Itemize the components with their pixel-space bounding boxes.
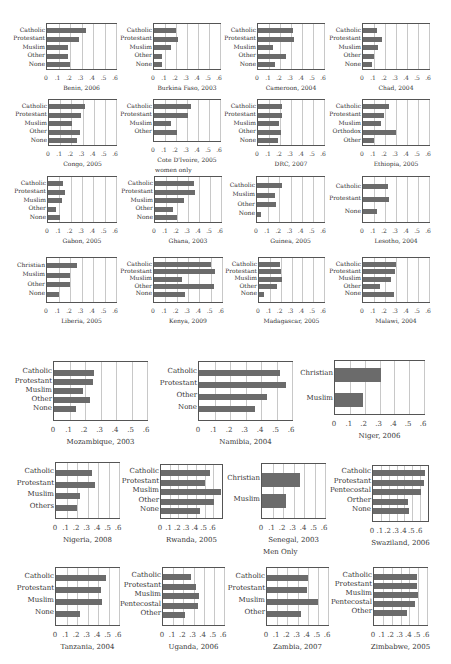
- bar: [257, 212, 261, 217]
- x-tick-label: .5: [270, 426, 282, 434]
- category-label: Other: [212, 51, 256, 58]
- gridline: [105, 24, 106, 69]
- x-tick-label: .2: [64, 227, 76, 234]
- bar: [56, 587, 101, 593]
- bar: [199, 382, 286, 388]
- category-label: Other: [213, 282, 257, 289]
- x-tick-label: .6: [215, 307, 227, 314]
- category-label: Other: [106, 609, 161, 617]
- category-label: Pentecostal: [316, 486, 371, 494]
- category-label: Other: [108, 51, 152, 58]
- x-tick-label: .4: [86, 307, 98, 314]
- category-label: Other: [212, 127, 256, 134]
- gridline: [302, 258, 303, 302]
- chart-title: Senegal, 2003: [241, 536, 346, 544]
- bar: [335, 368, 381, 382]
- x-tick-label: .6: [321, 631, 333, 639]
- category-label: Catholic: [317, 26, 361, 33]
- bar-chart-panel: 0.1.2.3.4.5.6CatholicProtestantMuslimOth…: [47, 176, 117, 223]
- plot-area: [53, 361, 148, 421]
- bar: [257, 183, 282, 188]
- x-tick-label: .6: [422, 74, 434, 81]
- category-label: None: [104, 505, 159, 513]
- x-tick-label: .5: [204, 307, 216, 314]
- plot-area: [362, 176, 430, 223]
- gridline: [302, 24, 303, 69]
- gridline: [198, 24, 199, 69]
- x-tick-label: .6: [217, 631, 229, 639]
- x-tick-label: .1: [343, 420, 355, 428]
- category-label: Christian: [205, 474, 260, 482]
- category-label: Catholic: [317, 102, 361, 109]
- x-tick-label: 0: [147, 307, 159, 314]
- category-label: None: [3, 136, 47, 143]
- chart-title: Ethiopia, 2005: [342, 160, 450, 167]
- bar: [258, 54, 286, 59]
- x-tick-label: .3: [181, 307, 193, 314]
- bar: [48, 190, 65, 195]
- bar: [258, 138, 278, 143]
- bar: [363, 184, 388, 189]
- category-label: Muslim: [104, 486, 159, 494]
- gridline: [429, 177, 430, 222]
- category-label: Catholic: [108, 102, 152, 109]
- category-label: Other: [1, 280, 45, 287]
- bar: [154, 292, 185, 297]
- plot-area: [153, 23, 221, 70]
- gridline: [199, 177, 200, 222]
- plot-area: [257, 99, 325, 146]
- x-tick-label: .6: [213, 146, 225, 153]
- bar-chart-panel: 0.1.2.3.4.5.6CatholicProtestantMuslimOth…: [258, 257, 325, 303]
- category-label: Other: [109, 204, 153, 211]
- gridline: [385, 24, 386, 69]
- category-label: Protestant: [213, 267, 257, 274]
- category-label: Catholic: [0, 367, 52, 375]
- plot-area: [373, 567, 428, 626]
- category-label: None: [1, 289, 45, 296]
- category-label: Catholic: [2, 179, 46, 186]
- category-label: Protestant: [104, 477, 159, 485]
- gridline: [427, 568, 428, 625]
- bar: [374, 610, 407, 616]
- category-label: Catholic: [3, 102, 47, 109]
- gridline: [304, 464, 305, 518]
- bar: [56, 505, 77, 511]
- category-label: Muslim: [205, 495, 260, 503]
- bar: [161, 480, 205, 486]
- bar: [163, 603, 198, 609]
- x-tick-label: .5: [402, 420, 414, 428]
- gridline: [409, 361, 410, 414]
- category-label: Protestant: [317, 267, 361, 274]
- category-label: Protestant: [2, 187, 46, 194]
- bar: [259, 292, 264, 297]
- bar: [49, 113, 81, 118]
- bar: [374, 574, 417, 580]
- category-label: Catholic: [1, 26, 45, 33]
- plot-area: [48, 99, 117, 146]
- category-label: Protestant: [3, 110, 47, 117]
- category-label: Muslim: [211, 190, 255, 197]
- category-label: Other: [317, 51, 361, 58]
- category-label: Pentecostal: [106, 600, 161, 608]
- category-label: Muslim: [106, 590, 161, 598]
- gridline: [302, 177, 303, 222]
- bar-chart-panel: 0.1.2.3.4.5.6ChristianMuslimOtherNoneLib…: [46, 257, 117, 303]
- category-label: Other: [317, 607, 372, 615]
- x-tick-label: .2: [78, 426, 90, 434]
- bar: [363, 62, 372, 67]
- gridline: [116, 362, 117, 420]
- gridline: [82, 258, 83, 302]
- category-label: Protestant: [212, 34, 256, 41]
- gridline: [98, 463, 99, 518]
- chart-title: Gabon, 2005: [27, 237, 137, 244]
- chart-title: Swaziland, 2006: [352, 539, 449, 547]
- category-label: Other: [210, 608, 265, 616]
- gridline: [204, 568, 205, 625]
- x-tick-label: .2: [358, 420, 370, 428]
- bar: [363, 197, 389, 202]
- bar: [258, 130, 281, 135]
- category-label: Muslim: [213, 274, 257, 281]
- category-label: Muslim: [317, 119, 361, 126]
- gridline: [94, 100, 95, 145]
- bar: [155, 181, 194, 186]
